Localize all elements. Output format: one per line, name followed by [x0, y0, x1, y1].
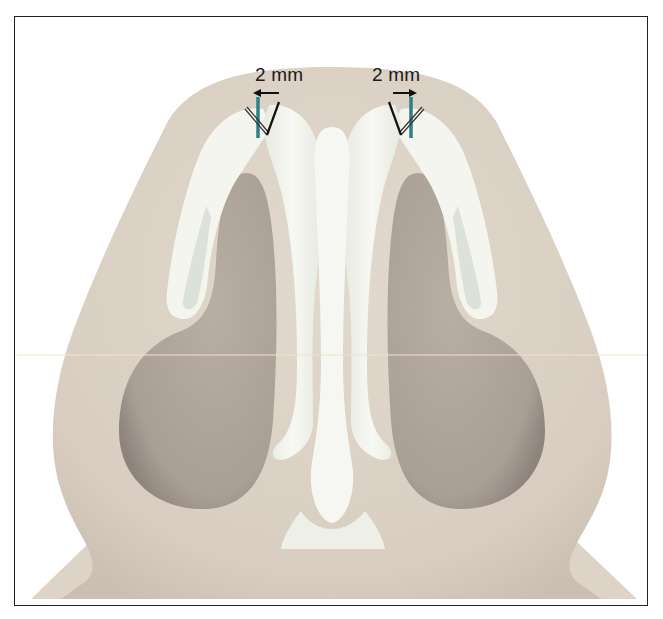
left-measurement-label: 2 mm [255, 64, 303, 86]
nasal-base-illustration [15, 17, 648, 606]
figure-frame [14, 16, 648, 606]
right-measurement-label: 2 mm [372, 64, 420, 86]
